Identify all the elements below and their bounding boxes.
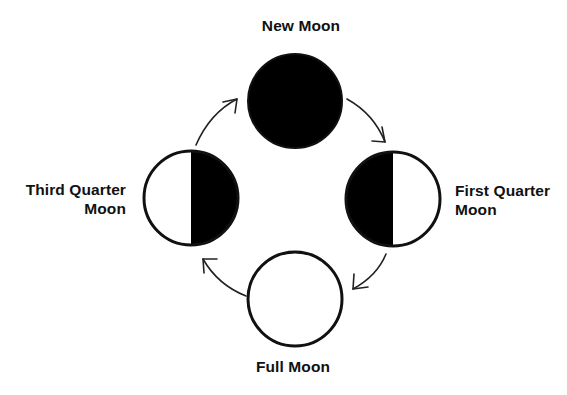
- full-moon-label: Full Moon: [222, 357, 364, 376]
- arrow-first-to-full: [353, 254, 386, 289]
- first-quarter-moon-node: [346, 152, 440, 246]
- full-moon-node: [248, 252, 342, 346]
- label-line: Moon: [10, 199, 126, 218]
- arrow-new-to-first: [347, 99, 385, 142]
- third-quarter-moon-node: [144, 151, 238, 245]
- first-quarter-moon-label: First Quarter Moon: [455, 181, 567, 219]
- third-quarter-dark-half: [191, 151, 238, 245]
- arrow-third-to-new: [196, 99, 237, 145]
- label-line: New Moon: [230, 16, 372, 35]
- label-line: First Quarter: [455, 181, 567, 200]
- label-line: Full Moon: [222, 357, 364, 376]
- arrow-full-to-third: [203, 259, 246, 296]
- new-moon-node: [248, 54, 342, 148]
- new-moon-icon: [248, 54, 342, 148]
- label-line: Moon: [455, 200, 567, 219]
- first-quarter-dark-half: [346, 152, 393, 246]
- new-moon-label: New Moon: [230, 16, 372, 35]
- third-quarter-moon-label: Third Quarter Moon: [10, 180, 126, 218]
- full-moon-icon: [248, 252, 342, 346]
- label-line: Third Quarter: [10, 180, 126, 199]
